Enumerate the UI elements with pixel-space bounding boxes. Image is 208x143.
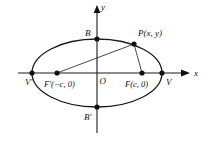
y-axis-arrowhead xyxy=(94,5,101,13)
ellipse-figure-svg: x y O V′ V B B′ F′(−c, 0) F(c, 0) P(x, y… xyxy=(0,0,208,143)
vertex-right-point xyxy=(159,70,164,75)
vertex-left-label: V′ xyxy=(25,77,33,87)
y-axis xyxy=(94,5,101,133)
x-axis-label: x xyxy=(193,68,198,78)
vertex-right-label: V xyxy=(166,77,173,87)
point-p-label: P(x, y) xyxy=(137,28,162,38)
x-axis-arrowhead xyxy=(181,70,190,77)
focus-right-point xyxy=(139,70,144,75)
ellipse-diagram: x y O V′ V B B′ F′(−c, 0) F(c, 0) P(x, y… xyxy=(0,0,208,143)
covertex-top-label: B xyxy=(85,28,91,38)
focus-left-label: F′(−c, 0) xyxy=(43,79,75,89)
origin-label: O xyxy=(100,76,107,86)
covertex-top-point xyxy=(94,36,99,41)
focus-right-label: F(c, 0) xyxy=(124,79,148,89)
y-axis-label: y xyxy=(100,2,105,12)
focal-radius-left xyxy=(57,44,134,73)
point-p-marker xyxy=(131,41,136,46)
focus-left-point xyxy=(54,70,59,75)
covertex-bottom-point xyxy=(94,104,99,109)
covertex-bottom-label: B′ xyxy=(84,112,92,122)
vertex-left-point xyxy=(29,70,34,75)
